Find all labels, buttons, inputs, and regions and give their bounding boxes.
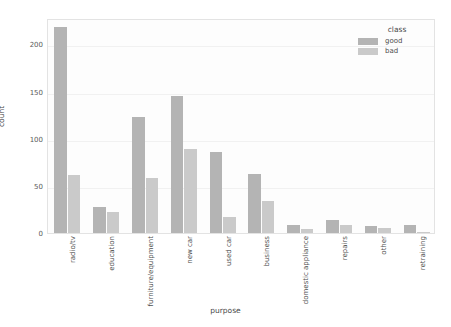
bar-bad <box>146 178 159 233</box>
bar-good <box>248 174 261 233</box>
y-axis-tick-label: 200 <box>30 41 43 49</box>
bar-bad <box>378 228 391 233</box>
bar-bad <box>68 175 81 233</box>
x-axis-tick-label: repairs <box>341 236 349 260</box>
bar-bad <box>262 201 275 233</box>
y-axis-title: count <box>0 106 6 127</box>
bar-good <box>132 117 145 233</box>
x-axis-tick-label: other <box>380 236 388 255</box>
x-axis-title: purpose <box>0 306 451 315</box>
legend-entry: bad <box>358 47 436 55</box>
x-axis-tick-label: used car <box>225 236 233 266</box>
bar-good <box>326 220 339 233</box>
bar-good <box>54 27 67 233</box>
x-axis-tick-label: radio/tv <box>69 236 77 263</box>
bar-bad <box>107 212 120 233</box>
bar-good <box>210 152 223 233</box>
x-axis-tick-label: education <box>108 236 116 271</box>
bar-bad <box>417 232 430 233</box>
x-axis-tick-labels: radio/tveducationfurniture/equipmentnew … <box>47 236 435 306</box>
y-axis-tick-label: 100 <box>30 136 43 144</box>
bar-bad <box>223 217 236 233</box>
x-axis-tick-label: retraining <box>419 236 427 270</box>
legend-entries: goodbad <box>358 37 436 55</box>
bar-bad <box>301 229 314 233</box>
legend-label: bad <box>385 47 398 55</box>
legend-title: class <box>358 25 436 34</box>
bar-bad <box>340 225 353 233</box>
bar-good <box>365 226 378 233</box>
legend-label: good <box>385 37 402 45</box>
legend: class goodbad <box>354 22 440 61</box>
legend-swatch-bad <box>358 48 378 55</box>
bar-good <box>404 225 417 233</box>
x-axis-tick-label: domestic appliance <box>302 236 310 304</box>
x-axis-tick-label: furniture/equipment <box>147 236 155 307</box>
y-axis-tick-label: 50 <box>34 183 43 191</box>
y-axis-tick-label: 0 <box>39 230 43 238</box>
bar-bad <box>184 149 197 233</box>
legend-entry: good <box>358 37 436 45</box>
x-axis-tick-label: new car <box>186 236 194 264</box>
bar-good <box>93 207 106 233</box>
bar-good <box>287 225 300 233</box>
y-axis-tick-labels: 050100150200 <box>0 19 43 234</box>
x-axis-tick-label: business <box>263 236 271 267</box>
y-axis-tick-label: 150 <box>30 89 43 97</box>
bar-good <box>171 96 184 233</box>
chart-figure: 050100150200 count radio/tveducationfurn… <box>0 0 451 327</box>
legend-swatch-good <box>358 38 378 45</box>
